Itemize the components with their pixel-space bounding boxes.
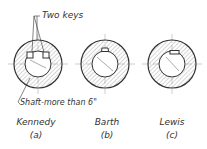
lewis-letter: (c) bbox=[166, 130, 178, 140]
barth-key-section bbox=[75, 34, 135, 94]
kennedy-key-section bbox=[8, 16, 68, 104]
two-keys-callout: Two keys bbox=[42, 10, 84, 20]
kennedy-label: Kennedy bbox=[16, 117, 56, 127]
key-types-diagram: Two keys Shaft-more than 6" Kennedy (a) … bbox=[0, 0, 207, 149]
barth-label: Barth bbox=[95, 117, 120, 127]
shaft-callout: Shaft-more than 6" bbox=[20, 98, 97, 107]
barth-letter: (b) bbox=[101, 130, 114, 140]
kennedy-letter: (a) bbox=[30, 130, 43, 140]
lewis-label: Lewis bbox=[159, 117, 184, 127]
lewis-key-section bbox=[142, 34, 202, 94]
